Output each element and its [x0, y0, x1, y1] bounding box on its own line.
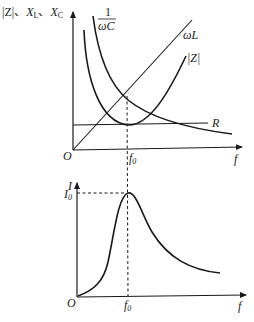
bottom-x-axis-label: f — [238, 299, 243, 313]
inductive-label: ωL — [183, 28, 198, 42]
capacitive-label-denominator: ωC — [98, 19, 115, 33]
bottom-f0-label: f0 — [124, 298, 131, 313]
current-chart: I I0 O f0 f — [63, 179, 246, 313]
impedance-label: |Z| — [187, 51, 200, 65]
top-f0-label: f0 — [129, 151, 136, 166]
top-x-axis-label: f — [234, 152, 239, 166]
capacitive-label-numerator: 1 — [105, 5, 111, 19]
top-x-axis — [73, 147, 242, 150]
f0-dashed-line — [127, 96, 128, 296]
resonance-diagram: |Z|、XL、XC 1 ωC ωL |Z| R O f0 f I I0 O f0… — [0, 0, 254, 322]
resistance-label: R — [211, 116, 220, 130]
bottom-x-axis — [77, 295, 246, 297]
resistance-line — [73, 123, 208, 125]
top-origin-label: O — [63, 149, 72, 163]
impedance-curve — [84, 30, 186, 125]
bottom-origin-label: O — [67, 296, 76, 310]
inductive-reactance-line — [73, 20, 192, 150]
top-y-axis-label: |Z|、XL、XC — [2, 5, 63, 20]
impedance-chart: |Z|、XL、XC 1 ωC ωL |Z| R O f0 f — [2, 5, 242, 296]
current-resonance-curve — [78, 193, 220, 296]
